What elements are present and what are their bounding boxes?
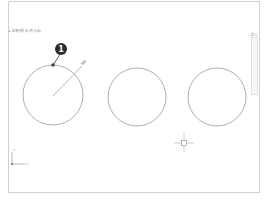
circle-right[interactable] — [188, 68, 246, 126]
callout-number: 1 — [58, 45, 64, 54]
ucs-icon: Y X — [11, 148, 28, 166]
drawing-canvas[interactable]: 半径 1 Y X — [0, 0, 268, 201]
svg-text:X: X — [26, 162, 28, 166]
radius-label: 半径 — [79, 58, 87, 66]
callout-leader — [54, 54, 60, 64]
svg-text:Y: Y — [13, 148, 15, 152]
crosshair-cursor-icon — [174, 133, 194, 153]
radius-line — [53, 66, 82, 96]
circle-middle[interactable] — [108, 68, 166, 126]
